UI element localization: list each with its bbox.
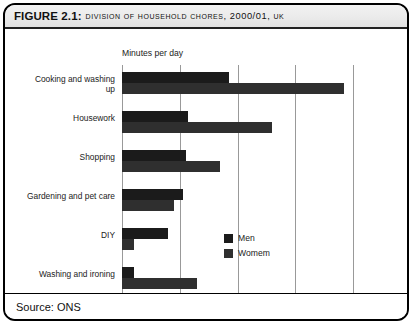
chart-legend: MenWomem bbox=[224, 233, 270, 263]
gridline bbox=[295, 65, 296, 299]
bar-womem-5 bbox=[122, 278, 197, 289]
y-axis-category-label: Washing and ironing bbox=[39, 269, 115, 280]
bar-men-5 bbox=[122, 267, 134, 278]
plot-area bbox=[122, 65, 353, 299]
y-axis-category-labels: Cooking and washing upHouseworkShoppingG… bbox=[5, 65, 115, 299]
bar-womem-2 bbox=[122, 161, 220, 172]
y-axis-category-label: DIY bbox=[101, 230, 115, 241]
figure-number: FIGURE 2.1: bbox=[14, 10, 82, 22]
legend-swatch-icon bbox=[224, 249, 233, 258]
bar-men-3 bbox=[122, 189, 183, 200]
y-axis-category-label: Cooking and washing up bbox=[35, 74, 115, 95]
x-axis-title: Minutes per day bbox=[122, 48, 183, 58]
figure-footer: Source: ONS bbox=[5, 293, 407, 319]
bar-womem-1 bbox=[122, 122, 272, 133]
bar-men-2 bbox=[122, 150, 186, 161]
bar-womem-4 bbox=[122, 239, 134, 250]
y-axis-category-label: Housework bbox=[73, 113, 115, 124]
legend-swatch-icon bbox=[224, 234, 233, 243]
y-axis-category-label: Shopping bbox=[80, 152, 115, 163]
source-note: Source: ONS bbox=[16, 301, 81, 313]
legend-label: Womem bbox=[238, 248, 270, 258]
figure-card: FIGURE 2.1: Division of household chores… bbox=[3, 3, 409, 321]
bar-womem-0 bbox=[122, 83, 344, 94]
bar-men-1 bbox=[122, 111, 188, 122]
figure-caption: Division of household chores, 2000/01, U… bbox=[86, 11, 285, 21]
legend-label: Men bbox=[238, 233, 255, 243]
gridline bbox=[238, 65, 239, 299]
chart-region: Minutes per day Cooking and washing upHo… bbox=[5, 29, 407, 319]
legend-item: Womem bbox=[224, 248, 270, 258]
y-axis-category-label: Gardening and pet care bbox=[27, 191, 115, 202]
legend-item: Men bbox=[224, 233, 270, 243]
gridline bbox=[353, 65, 354, 299]
bar-men-0 bbox=[122, 72, 229, 83]
gridline bbox=[180, 65, 181, 299]
bar-men-4 bbox=[122, 228, 168, 239]
figure-header: FIGURE 2.1: Division of household chores… bbox=[5, 5, 407, 29]
gridline bbox=[122, 65, 123, 299]
bar-womem-3 bbox=[122, 200, 174, 211]
